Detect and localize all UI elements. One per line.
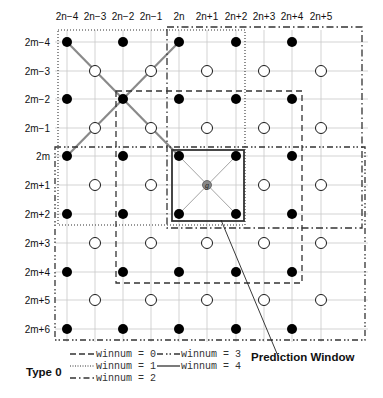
hollow-node bbox=[202, 238, 213, 249]
row-label: 2m+2 bbox=[25, 209, 51, 220]
filled-node bbox=[174, 37, 184, 47]
hollow-node bbox=[316, 238, 327, 249]
hollow-node bbox=[146, 123, 157, 134]
hollow-node bbox=[202, 123, 213, 134]
hollow-node bbox=[146, 66, 157, 77]
filled-node bbox=[231, 151, 241, 161]
column-label: 2n bbox=[173, 11, 184, 22]
hollow-node bbox=[259, 123, 270, 134]
hollow-node bbox=[316, 180, 327, 191]
filled-node bbox=[287, 267, 297, 277]
hollow-node bbox=[90, 295, 101, 306]
filled-node bbox=[174, 94, 184, 104]
filled-node bbox=[231, 324, 241, 334]
hollow-node bbox=[202, 295, 213, 306]
column-label: 2n−4 bbox=[56, 11, 79, 22]
filled-node bbox=[62, 324, 72, 334]
hollow-node bbox=[90, 123, 101, 134]
filled-node bbox=[62, 94, 72, 104]
legend-winnum-0: winnum = 0 bbox=[96, 349, 156, 360]
hollow-node bbox=[259, 295, 270, 306]
row-label: 2m−4 bbox=[25, 37, 51, 48]
hollow-node bbox=[90, 180, 101, 191]
filled-node bbox=[287, 209, 297, 219]
prediction-window-label: Prediction Window bbox=[251, 351, 354, 363]
filled-node bbox=[62, 151, 72, 161]
legend-winnum-1: winnum = 1 bbox=[96, 361, 156, 372]
legend-winnum-4: winnum = 4 bbox=[181, 361, 241, 372]
annotation-pointer bbox=[221, 220, 278, 356]
hollow-node bbox=[146, 295, 157, 306]
row-label: 2m−3 bbox=[25, 66, 51, 77]
hollow-node bbox=[146, 238, 157, 249]
filled-node bbox=[62, 267, 72, 277]
hollow-node bbox=[316, 295, 327, 306]
row-label: 2m+5 bbox=[25, 295, 51, 306]
row-label: 2m+6 bbox=[25, 324, 51, 335]
filled-node bbox=[287, 151, 297, 161]
column-label: 2n−2 bbox=[112, 11, 135, 22]
center-label: g bbox=[205, 181, 209, 190]
type-label: Type 0 bbox=[26, 366, 62, 378]
grid-nodes bbox=[62, 37, 327, 334]
column-label: 2n+3 bbox=[253, 11, 276, 22]
hollow-node bbox=[146, 180, 157, 191]
row-label: 2m bbox=[36, 151, 50, 162]
row-label: 2m+1 bbox=[25, 180, 51, 191]
hollow-node bbox=[259, 180, 270, 191]
filled-node bbox=[231, 94, 241, 104]
filled-node bbox=[231, 209, 241, 219]
filled-node bbox=[118, 151, 128, 161]
row-label: 2m−1 bbox=[25, 123, 51, 134]
filled-node bbox=[174, 267, 184, 277]
filled-node bbox=[118, 94, 128, 104]
column-labels: 2n−42n−32n−22n−12n2n+12n+22n+32n+42n+5 bbox=[56, 11, 333, 22]
filled-node bbox=[174, 209, 184, 219]
hollow-node bbox=[259, 238, 270, 249]
legend-winnum-3: winnum = 3 bbox=[181, 349, 241, 360]
filled-node bbox=[62, 209, 72, 219]
filled-node bbox=[118, 267, 128, 277]
hollow-node bbox=[90, 66, 101, 77]
filled-node bbox=[118, 37, 128, 47]
column-label: 2n+1 bbox=[196, 11, 219, 22]
row-labels: 2m−42m−32m−22m−12m2m+12m+22m+32m+42m+52m… bbox=[25, 37, 51, 335]
filled-node bbox=[118, 209, 128, 219]
filled-node bbox=[287, 94, 297, 104]
filled-node bbox=[174, 324, 184, 334]
column-label: 2n+4 bbox=[281, 11, 304, 22]
hollow-node bbox=[259, 66, 270, 77]
row-label: 2m−2 bbox=[25, 94, 51, 105]
column-label: 2n−3 bbox=[84, 11, 107, 22]
hollow-node bbox=[316, 66, 327, 77]
filled-node bbox=[118, 324, 128, 334]
filled-node bbox=[62, 37, 72, 47]
row-label: 2m+3 bbox=[25, 238, 51, 249]
column-label: 2n+2 bbox=[225, 11, 248, 22]
sampling-grid-diagram: 2n−42n−32n−22n−12n2n+12n+22n+32n+42n+5 2… bbox=[0, 0, 383, 398]
column-label: 2n−1 bbox=[140, 11, 163, 22]
legend-winnum-2: winnum = 2 bbox=[96, 373, 156, 384]
hollow-node bbox=[90, 238, 101, 249]
filled-node bbox=[287, 37, 297, 47]
filled-node bbox=[174, 151, 184, 161]
hollow-node bbox=[202, 66, 213, 77]
hollow-node bbox=[316, 123, 327, 134]
filled-node bbox=[287, 324, 297, 334]
row-label: 2m+4 bbox=[25, 267, 51, 278]
column-label: 2n+5 bbox=[310, 11, 333, 22]
filled-node bbox=[231, 267, 241, 277]
filled-node bbox=[231, 37, 241, 47]
legend: winnum = 0 winnum = 1 winnum = 2 winnum … bbox=[70, 349, 241, 384]
